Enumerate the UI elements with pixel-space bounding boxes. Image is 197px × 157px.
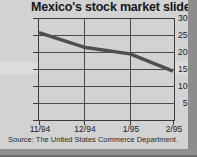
chart-figure: Mexico's stock market slide 3000 2500 20…: [0, 0, 197, 157]
x-axis-label-1-95: 1/95: [117, 124, 145, 134]
right-edge-shadow: [188, 0, 197, 150]
chart-title: Mexico's stock market slide: [31, 0, 181, 14]
source-note: Source: The United States Commerce Depar…: [0, 135, 186, 144]
x-axis-label-2-95: 2/95: [160, 124, 188, 134]
series-polyline: [39, 33, 173, 71]
x-axis-label-11-94: 11/94: [24, 124, 56, 134]
x-axis-label-12-94: 12/94: [69, 124, 101, 134]
bottom-edge-line: [0, 155, 197, 157]
data-series-line: [38, 18, 175, 121]
